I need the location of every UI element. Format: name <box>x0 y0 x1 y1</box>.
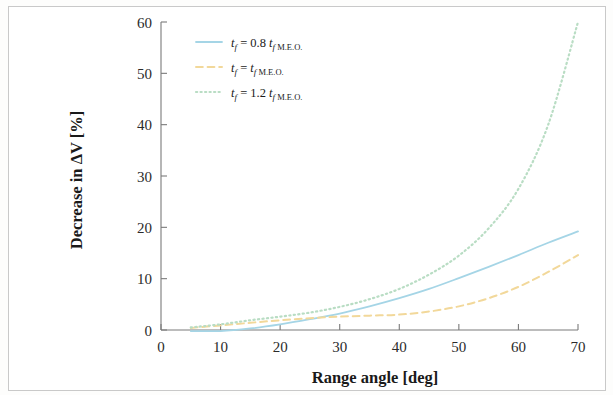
y-tick-label: 10 <box>137 271 152 287</box>
x-tick-label: 0 <box>157 339 165 355</box>
legend-label-1: tf = 0.8 tf M.E.O. <box>231 36 302 52</box>
legend-label-3: tf = 1.2 tf M.E.O. <box>231 86 302 102</box>
y-axis-tick-labels: 0102030405060 <box>137 15 152 339</box>
x-tick-label: 40 <box>392 339 407 355</box>
y-tick-label: 40 <box>137 117 152 133</box>
y-tick-label: 50 <box>137 66 152 82</box>
x-tick-label: 60 <box>511 339 526 355</box>
x-axis-title: Range angle [deg] <box>312 368 439 387</box>
x-tick-label: 70 <box>571 339 586 355</box>
axes: 0102030405060 010203040506070 <box>137 15 586 356</box>
x-tick-label: 30 <box>332 339 347 355</box>
y-axis-ticks <box>161 22 167 330</box>
legend-label-2: tf = tf M.E.O. <box>231 61 284 77</box>
series-line-1 <box>191 231 578 331</box>
series-line-2 <box>191 255 578 328</box>
chart-legend: tf = 0.8 tf M.E.O.tf = tf M.E.O.tf = 1.2… <box>196 36 302 102</box>
x-axis-tick-labels: 010203040506070 <box>157 339 585 355</box>
y-axis-title: Decrease in ΔV [%] <box>67 111 86 250</box>
chart-figure: 0102030405060 010203040506070 tf = 0.8 t… <box>0 0 613 395</box>
y-tick-label: 30 <box>137 169 152 185</box>
x-tick-label: 10 <box>213 339 228 355</box>
chart-canvas: 0102030405060 010203040506070 tf = 0.8 t… <box>0 0 613 395</box>
y-tick-label: 60 <box>137 15 152 31</box>
y-tick-label: 0 <box>145 323 153 339</box>
y-tick-label: 20 <box>137 220 152 236</box>
figure-page: 0102030405060 010203040506070 tf = 0.8 t… <box>0 0 613 395</box>
x-tick-label: 20 <box>273 339 288 355</box>
x-tick-label: 50 <box>451 339 466 355</box>
